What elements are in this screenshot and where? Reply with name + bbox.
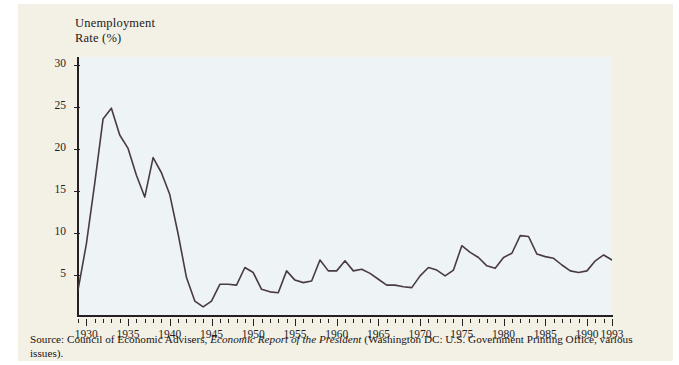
x-axis-tick-minor: [403, 319, 404, 323]
x-axis-tick-major: [587, 319, 588, 326]
x-axis-tick-major: [378, 319, 379, 326]
x-axis-tick-minor: [153, 319, 154, 323]
x-axis-tick-minor: [520, 319, 521, 323]
source-prefix: Source: Council of Economic Advisers,: [30, 333, 210, 345]
x-axis-tick-minor: [120, 319, 121, 323]
figure-container: Unemployment Rate (%) 51015202530 193019…: [0, 0, 679, 365]
x-axis-tick-minor: [78, 319, 79, 323]
x-axis-tick-major: [612, 319, 613, 326]
x-axis-tick-minor: [554, 319, 555, 323]
x-axis-tick-minor: [604, 319, 605, 323]
x-axis-tick-minor: [570, 319, 571, 323]
x-axis-tick-major: [86, 319, 87, 326]
x-axis-tick-minor: [362, 319, 363, 323]
x-axis-tick-minor: [161, 319, 162, 323]
x-axis-tick-minor: [562, 319, 563, 323]
x-axis-tick-minor: [262, 319, 263, 323]
x-axis-tick-minor: [387, 319, 388, 323]
unemployment-line-series: [78, 57, 612, 317]
x-axis-tick-minor: [186, 319, 187, 323]
x-axis-tick-minor: [203, 319, 204, 323]
x-axis-tick-minor: [428, 319, 429, 323]
y-axis-tick-label: 5: [40, 267, 66, 279]
source-publication-title: Economic Report of the President: [210, 333, 361, 345]
x-axis-tick-minor: [195, 319, 196, 323]
x-axis-tick-minor: [178, 319, 179, 323]
y-axis-tick-label: 15: [40, 183, 66, 195]
y-axis-title: Unemployment Rate (%): [75, 16, 155, 46]
x-axis-tick-minor: [487, 319, 488, 323]
x-axis-tick-minor: [479, 319, 480, 323]
x-axis-tick-minor: [537, 319, 538, 323]
x-axis-tick-minor: [95, 319, 96, 323]
x-axis-tick-major: [253, 319, 254, 326]
y-axis-tick-label: 25: [40, 99, 66, 111]
x-axis-tick-major: [128, 319, 129, 326]
x-axis-tick-minor: [579, 319, 580, 323]
x-axis-tick-minor: [103, 319, 104, 323]
x-axis-tick-major: [212, 319, 213, 326]
x-axis-tick-minor: [353, 319, 354, 323]
x-axis-tick-minor: [287, 319, 288, 323]
x-axis-tick-minor: [145, 319, 146, 323]
x-axis-tick-minor: [270, 319, 271, 323]
x-axis-tick-major: [337, 319, 338, 326]
x-axis-tick-minor: [512, 319, 513, 323]
x-axis-tick-minor: [136, 319, 137, 323]
x-axis-tick-major: [170, 319, 171, 326]
x-axis-tick-major: [504, 319, 505, 326]
source-note: Source: Council of Economic Advisers, Ec…: [30, 333, 658, 360]
y-axis-tick-label: 10: [40, 225, 66, 237]
x-axis-tick-minor: [445, 319, 446, 323]
x-axis-tick-minor: [328, 319, 329, 323]
x-axis-tick-minor: [370, 319, 371, 323]
x-axis-tick-minor: [303, 319, 304, 323]
x-axis-tick-minor: [220, 319, 221, 323]
x-axis-tick-minor: [345, 319, 346, 323]
x-axis-tick-major: [295, 319, 296, 326]
x-axis-tick-major: [462, 319, 463, 326]
x-axis-tick-minor: [245, 319, 246, 323]
x-axis-tick-minor: [495, 319, 496, 323]
x-axis-tick-minor: [278, 319, 279, 323]
x-axis-tick-major: [545, 319, 546, 326]
x-axis-tick-major: [420, 319, 421, 326]
x-axis-tick-minor: [453, 319, 454, 323]
y-axis-tick-label: 30: [40, 57, 66, 69]
y-axis-tick-label: 20: [40, 141, 66, 153]
x-axis-tick-minor: [228, 319, 229, 323]
x-axis-tick-minor: [395, 319, 396, 323]
x-axis-tick-minor: [470, 319, 471, 323]
x-axis-tick-minor: [437, 319, 438, 323]
x-axis-tick-minor: [111, 319, 112, 323]
x-axis-tick-minor: [595, 319, 596, 323]
x-axis-tick-minor: [312, 319, 313, 323]
x-axis-tick-minor: [412, 319, 413, 323]
x-axis-tick-minor: [320, 319, 321, 323]
x-axis-tick-minor: [529, 319, 530, 323]
x-axis-tick-minor: [237, 319, 238, 323]
